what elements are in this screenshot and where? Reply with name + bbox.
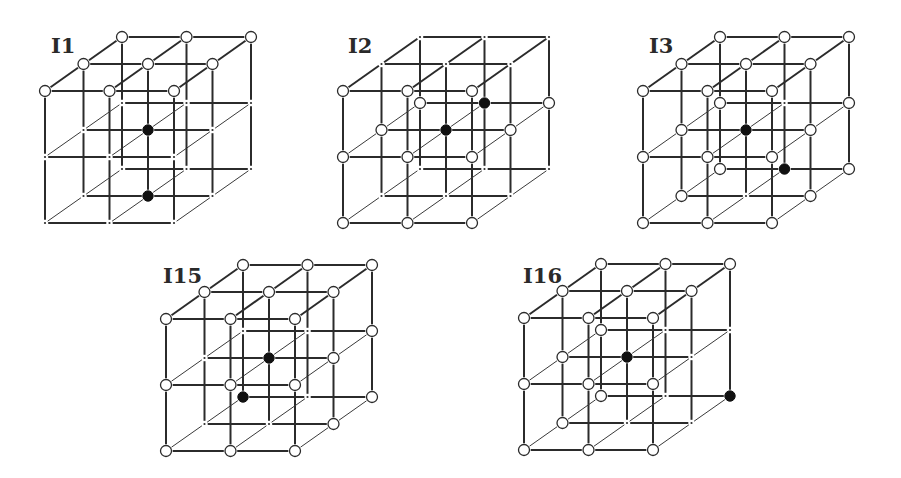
- open-node-icon: [583, 445, 594, 456]
- lattice-point-icon: [121, 168, 123, 170]
- cube-i16: I16: [519, 259, 736, 456]
- lattice-edge: [513, 171, 546, 194]
- lattice-edge: [478, 134, 506, 153]
- open-node-icon: [544, 98, 555, 109]
- open-node-icon: [367, 260, 378, 271]
- lattice-edge: [51, 68, 79, 87]
- lattice-edge: [630, 398, 663, 421]
- lattice-point-icon: [483, 36, 485, 38]
- lattice-edge: [177, 198, 210, 221]
- lattice-point-icon: [121, 102, 123, 104]
- open-node-icon: [741, 59, 752, 70]
- open-node-icon: [199, 287, 210, 298]
- lattice-edge: [778, 134, 806, 153]
- lattice-edge: [272, 399, 305, 422]
- lattice-edge: [816, 173, 844, 192]
- lattice-edge: [172, 426, 202, 447]
- filled-node-icon: [622, 352, 632, 362]
- lattice-edge: [568, 268, 596, 287]
- lattice-point-icon: [664, 329, 666, 331]
- lattice-point-icon: [445, 195, 447, 197]
- lattice-edge: [154, 41, 182, 60]
- open-node-icon: [505, 125, 516, 136]
- open-node-icon: [638, 86, 649, 97]
- lattice-edge: [778, 68, 806, 87]
- lattice-edge: [659, 359, 689, 380]
- open-node-icon: [402, 86, 413, 97]
- open-node-icon: [844, 164, 855, 175]
- open-node-icon: [805, 191, 816, 202]
- open-node-icon: [648, 379, 659, 390]
- lattice-edge: [478, 198, 508, 219]
- open-node-icon: [596, 325, 607, 336]
- open-node-icon: [264, 287, 275, 298]
- lattice-edge: [236, 426, 266, 447]
- lattice-edge: [568, 400, 596, 419]
- open-node-icon: [143, 59, 154, 70]
- lattice-point-icon: [44, 222, 46, 224]
- open-node-icon: [338, 86, 349, 97]
- lattice-point-icon: [380, 63, 382, 65]
- filled-node-icon: [779, 164, 789, 174]
- open-node-icon: [225, 446, 236, 457]
- open-node-icon: [181, 32, 192, 43]
- open-node-icon: [367, 326, 378, 337]
- lattice-point-icon: [380, 195, 382, 197]
- lattice-point-icon: [108, 222, 110, 224]
- open-node-icon: [805, 59, 816, 70]
- lattice-point-icon: [729, 329, 731, 331]
- open-node-icon: [676, 59, 687, 70]
- cube-i2: I2: [338, 33, 555, 229]
- lattice-edge: [713, 198, 743, 219]
- open-node-icon: [557, 352, 568, 363]
- lattice-point-icon: [419, 36, 421, 38]
- lattice-edge: [236, 296, 264, 315]
- open-node-icon: [805, 125, 816, 136]
- figure-canvas: I1I2I3I15I16: [0, 0, 901, 478]
- lattice-edge: [451, 107, 479, 127]
- open-node-icon: [660, 259, 671, 270]
- open-node-icon: [676, 191, 687, 202]
- open-node-icon: [676, 125, 687, 136]
- open-node-icon: [415, 98, 426, 109]
- lattice-point-icon: [626, 422, 628, 424]
- lattice-edge: [413, 66, 443, 87]
- lattice-edge: [274, 333, 305, 355]
- lattice-point-icon: [211, 129, 213, 131]
- cube-i15: I15: [161, 260, 378, 457]
- open-node-icon: [648, 313, 659, 324]
- open-node-icon: [402, 218, 413, 229]
- lattice-nodes: [638, 32, 855, 229]
- lattice-edge: [594, 295, 622, 314]
- open-node-icon: [583, 313, 594, 324]
- open-node-icon: [161, 314, 172, 325]
- lattice-edge: [112, 134, 143, 156]
- lattice-edge: [215, 171, 248, 194]
- lattice-point-icon: [268, 423, 270, 425]
- lattice-point-icon: [483, 168, 485, 170]
- lattice-point-icon: [783, 102, 785, 104]
- open-node-icon: [767, 218, 778, 229]
- lattice-edge: [632, 332, 663, 354]
- lattice-nodes: [519, 259, 736, 456]
- lattice-edge: [384, 171, 417, 194]
- lattice-edge: [349, 66, 379, 87]
- lattice-edge: [86, 105, 119, 128]
- lattice-edge: [115, 68, 143, 87]
- open-node-icon: [467, 86, 478, 97]
- lattice-point-icon: [108, 156, 110, 158]
- cube-i1: I1: [40, 32, 257, 225]
- open-node-icon: [246, 32, 257, 43]
- lattice-edge: [339, 401, 367, 420]
- lattice-point-icon: [548, 36, 550, 38]
- cube-label: I2: [348, 33, 372, 58]
- lattice-edge: [210, 269, 238, 288]
- lattice-edge: [172, 360, 202, 381]
- open-node-icon: [290, 314, 301, 325]
- filled-node-icon: [479, 98, 489, 108]
- lattice-edge: [530, 361, 558, 380]
- lattice-edge: [413, 134, 441, 154]
- open-node-icon: [402, 152, 413, 163]
- lattice-edge: [649, 68, 677, 87]
- open-node-icon: [519, 313, 530, 324]
